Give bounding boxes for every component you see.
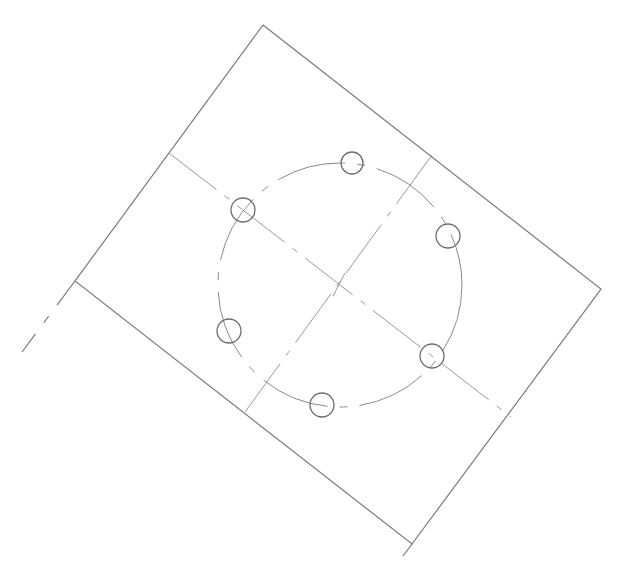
hole-3 <box>436 224 460 248</box>
hole-6 <box>310 393 334 417</box>
center-mark <box>333 273 345 296</box>
hole-4 <box>217 319 241 343</box>
technical-drawing <box>0 0 621 570</box>
plate-edge-extension-bottom <box>403 544 412 556</box>
plate-edge-extension <box>22 281 75 352</box>
centerline-major <box>169 153 511 417</box>
centerline-minor <box>245 155 432 412</box>
